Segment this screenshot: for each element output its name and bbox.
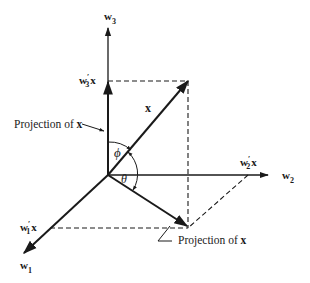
projection-left-label: Projection of x: [14, 118, 83, 131]
x-vector: [108, 81, 188, 175]
dashed-w2-to-plane: [188, 175, 248, 228]
theta-label: θ: [121, 172, 127, 186]
projection-diagram: ϕ θ w3 w′3x x Projection of x w′2x w2 w′…: [0, 0, 310, 283]
x-vector-label: x: [145, 101, 151, 115]
plane-projection-vector: [108, 175, 187, 226]
w2-axis-label: w2: [282, 169, 294, 185]
w1-axis-label: w1: [20, 259, 32, 275]
w2-projection-label: w′2x: [240, 155, 257, 171]
phi-label: ϕ: [114, 145, 121, 160]
w3-projection-label: w′3x: [79, 73, 96, 89]
theta-arc: [128, 152, 138, 190]
projection-bottom-label: Projection of x: [178, 234, 247, 247]
w3-axis-label: w3: [104, 10, 116, 26]
w1-axis: [24, 175, 108, 253]
projection-left-pointer: [82, 124, 104, 131]
w1-projection-label: w′1x: [20, 220, 37, 236]
